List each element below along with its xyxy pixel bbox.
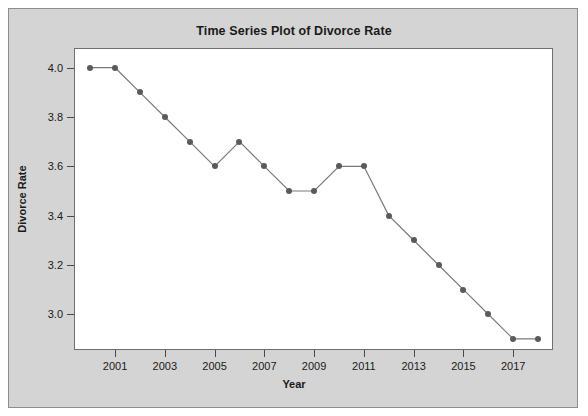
x-tick-label: 2011 xyxy=(352,360,376,372)
y-tick-label: 3.0 xyxy=(48,308,63,320)
x-tick-label: 2007 xyxy=(252,360,276,372)
data-point xyxy=(87,65,93,71)
page-title: Time Series Plot of Divorce Rate xyxy=(0,24,588,38)
x-tick-label: 2005 xyxy=(202,360,226,372)
x-tick-mark xyxy=(115,350,116,357)
y-tick-mark xyxy=(67,216,74,217)
data-point xyxy=(112,65,118,71)
x-tick-mark xyxy=(463,350,464,357)
data-point xyxy=(436,262,442,268)
chart-figure: Time Series Plot of Divorce Rate Divorce… xyxy=(0,0,588,416)
x-axis-label: Year xyxy=(0,378,588,390)
y-tick-mark xyxy=(67,314,74,315)
y-axis-label: Divorce Rate xyxy=(16,165,28,232)
x-tick-label: 2009 xyxy=(302,360,326,372)
x-tick-label: 2013 xyxy=(401,360,425,372)
data-point xyxy=(212,163,218,169)
x-tick-mark xyxy=(364,350,365,357)
y-tick-mark xyxy=(67,68,74,69)
x-tick-label: 2015 xyxy=(451,360,475,372)
y-tick-label: 3.6 xyxy=(48,160,63,172)
y-tick-mark xyxy=(67,166,74,167)
data-point xyxy=(386,213,392,219)
y-tick-label: 4.0 xyxy=(48,62,63,74)
y-tick-label: 3.2 xyxy=(48,259,63,271)
x-tick-label: 2017 xyxy=(501,360,525,372)
series-line-divorce-rate xyxy=(74,48,553,350)
y-tick-mark xyxy=(67,265,74,266)
x-tick-mark xyxy=(264,350,265,357)
data-point xyxy=(411,237,417,243)
y-tick-label: 3.8 xyxy=(48,111,63,123)
x-tick-mark xyxy=(513,350,514,357)
x-tick-mark xyxy=(314,350,315,357)
y-tick-mark xyxy=(67,117,74,118)
x-tick-label: 2003 xyxy=(153,360,177,372)
x-tick-label: 2001 xyxy=(103,360,127,372)
x-tick-mark xyxy=(414,350,415,357)
data-point xyxy=(162,114,168,120)
plot-area xyxy=(74,48,553,350)
data-point xyxy=(187,139,193,145)
data-point xyxy=(535,336,541,342)
y-tick-label: 3.4 xyxy=(48,210,63,222)
x-tick-mark xyxy=(165,350,166,357)
x-tick-mark xyxy=(215,350,216,357)
